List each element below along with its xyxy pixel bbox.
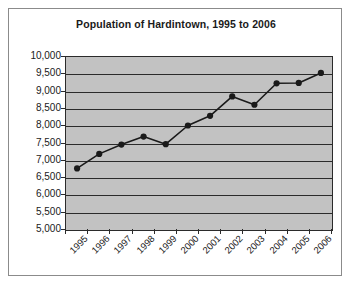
y-axis-tick-label: 9,000 <box>13 85 61 96</box>
x-axis-tick-label: 1997 <box>105 233 134 262</box>
y-axis-tick-label: 6,000 <box>13 188 61 199</box>
x-axis-tick-labels: 1995199619971998199920002001200220032004… <box>65 233 333 275</box>
data-point-marker: 2000: 8020 <box>185 122 191 128</box>
y-axis-tick-label: 10,000 <box>13 50 61 61</box>
data-point-marker: 2006: 9540 <box>318 70 324 76</box>
chart-figure: Population of Hardintown, 1995 to 2006 5… <box>8 8 342 276</box>
series-polyline <box>77 73 321 168</box>
y-axis-tick-label: 5,500 <box>13 206 61 217</box>
x-axis-tick-label: 2003 <box>238 233 267 262</box>
data-point-marker: 2004: 9240 <box>273 80 279 86</box>
data-point-marker: 2001: 8300 <box>207 113 213 119</box>
data-point-marker: 1995: 6780 <box>74 165 80 171</box>
data-point-marker: 1997: 7470 <box>118 141 124 147</box>
y-axis-tick-label: 5,000 <box>13 223 61 234</box>
data-point-marker: 2003: 8620 <box>251 102 257 108</box>
y-axis-tick-label: 7,000 <box>13 154 61 165</box>
y-axis-tick-label: 8,500 <box>13 102 61 113</box>
x-axis-tick-label: 2004 <box>260 233 289 262</box>
data-point-marker: 1999: 7480 <box>163 141 169 147</box>
y-axis-tick-labels: 5,0005,5006,0006,5007,0007,5008,0008,500… <box>9 56 61 229</box>
y-axis-tick-label: 8,000 <box>13 119 61 130</box>
data-point-marker: 2005: 9250 <box>296 80 302 86</box>
data-point-marker: 1998: 7700 <box>140 133 146 139</box>
x-axis-tick-label: 1998 <box>127 233 156 262</box>
plot-area: 1995: 67801996: 72001997: 74701998: 7700… <box>65 56 333 231</box>
chart-title: Population of Hardintown, 1995 to 2006 <box>9 18 343 30</box>
y-axis-tick-label: 7,500 <box>13 137 61 148</box>
y-axis-tick-label: 9,500 <box>13 67 61 78</box>
data-point-marker: 2002: 8860 <box>229 93 235 99</box>
data-point-marker: 1996: 7200 <box>96 151 102 157</box>
data-series-line: 1995: 67801996: 72001997: 74701998: 7700… <box>66 57 332 230</box>
y-axis-tick-label: 6,500 <box>13 171 61 182</box>
